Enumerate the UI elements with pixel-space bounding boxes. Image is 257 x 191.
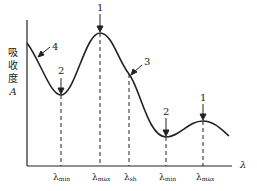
x-axis-label: λ <box>240 160 246 170</box>
y-label-char: A <box>7 85 19 98</box>
marker-label-1: 1 <box>97 3 103 13</box>
y-label-char: 度 <box>7 72 19 85</box>
y-label-char: 收 <box>7 59 19 72</box>
marker-label-2b: 2 <box>163 107 169 117</box>
x-tick-lambda-sh: λsh <box>124 172 137 182</box>
wavelength-guides <box>61 33 203 166</box>
x-tick-lambda-max: λmax <box>92 172 110 182</box>
marker-label-4: 4 <box>52 42 58 52</box>
marker-label-3: 3 <box>144 57 150 67</box>
x-tick-lambda-max-2: λmax <box>196 172 214 182</box>
marker-label-2: 2 <box>58 66 64 76</box>
marker-label-1b: 1 <box>200 93 206 103</box>
y-axis-label: 吸 收 度 A <box>7 46 19 98</box>
y-label-char: 吸 <box>7 46 19 59</box>
x-tick-lambda-min-2: λmin <box>159 172 176 182</box>
x-tick-lambda-min: λmin <box>53 172 70 182</box>
absorption-spectrum-diagram <box>0 0 257 191</box>
